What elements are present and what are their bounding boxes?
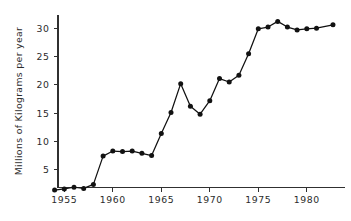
y-tick-label-20: 20 (37, 79, 50, 90)
y-tick-label-25: 25 (37, 51, 50, 62)
data-point (91, 182, 96, 187)
data-series-line (55, 21, 333, 190)
x-tick-label-1965: 1965 (148, 194, 174, 205)
data-point (72, 185, 77, 190)
x-tick-label-1975: 1975 (245, 194, 271, 205)
data-point-markers (52, 19, 335, 193)
data-point (207, 98, 212, 103)
data-point (246, 51, 251, 56)
line-chart: 51015202530 195519601965197019751980 Mil… (0, 0, 351, 221)
data-point (266, 25, 271, 30)
data-point (227, 79, 232, 84)
data-point (169, 110, 174, 115)
y-tick-label-15: 15 (37, 108, 50, 119)
data-point (159, 131, 164, 136)
data-point (178, 81, 183, 86)
data-point (198, 112, 203, 117)
data-point (256, 26, 261, 31)
data-point (130, 149, 135, 154)
x-axis-tick-labels: 195519601965197019751980 (51, 194, 319, 205)
data-point (314, 26, 319, 31)
data-point (295, 27, 300, 32)
y-tick-label-5: 5 (43, 164, 49, 175)
data-point (188, 104, 193, 109)
data-point (81, 186, 86, 191)
data-point (236, 73, 241, 78)
y-axis-ticks (54, 28, 59, 170)
y-axis-tick-labels: 51015202530 (37, 23, 50, 176)
x-tick-label-1970: 1970 (197, 194, 223, 205)
data-point (275, 19, 280, 24)
y-tick-label-10: 10 (37, 136, 50, 147)
chart-container: 51015202530 195519601965197019751980 Mil… (0, 0, 351, 221)
x-tick-label-1960: 1960 (100, 194, 126, 205)
data-point (139, 151, 144, 156)
data-point (101, 154, 106, 159)
data-point (285, 25, 290, 30)
x-tick-label-1980: 1980 (294, 194, 320, 205)
data-point (110, 149, 115, 154)
data-point (330, 22, 335, 27)
data-point (217, 76, 222, 81)
data-point (52, 188, 57, 193)
data-point (120, 149, 125, 154)
data-point (304, 26, 309, 31)
y-axis-title: Millions of Kilograms per year (13, 27, 24, 176)
x-axis-ticks (64, 188, 306, 193)
data-point (149, 153, 154, 158)
data-point (62, 186, 67, 191)
y-tick-label-30: 30 (37, 23, 50, 34)
x-tick-label-1955: 1955 (51, 194, 77, 205)
